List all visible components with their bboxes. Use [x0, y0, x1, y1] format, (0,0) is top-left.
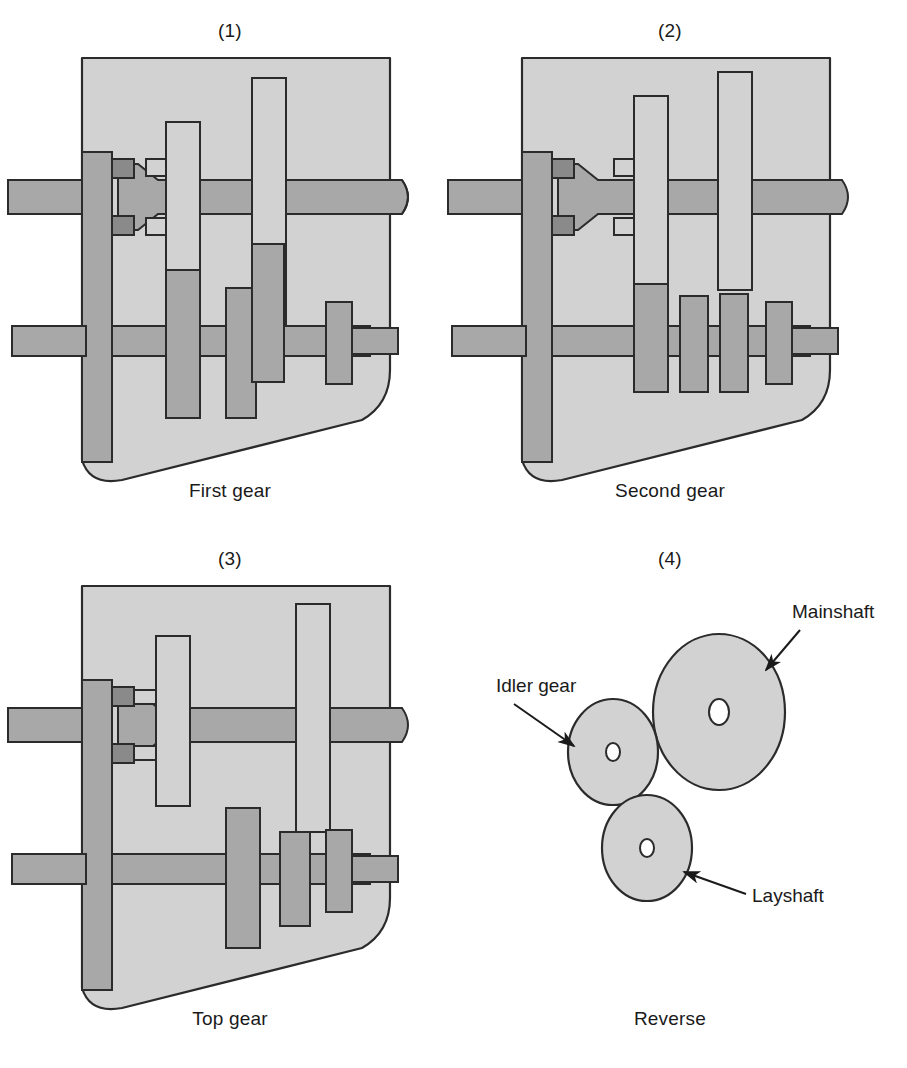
layshaft-left-stub [452, 326, 526, 356]
reverse-gear-drawing: Mainshaft Idler gear Layshaft [470, 580, 870, 1000]
gearbox-section-drawing [30, 580, 430, 1000]
gearbox-figure: (1) [0, 0, 907, 1068]
selector-fork-column [522, 152, 552, 462]
selector-fork-upper-claw [146, 159, 166, 176]
layshaft-gear-1 [226, 808, 260, 948]
panel-top-gear: (3) Top gear [30, 548, 430, 1048]
selector-fork-column [82, 152, 112, 462]
panel-reverse: (4) Mainshaft [470, 548, 870, 1048]
layshaft-gear-3 [720, 294, 748, 392]
layshaft-right-stub [346, 328, 398, 354]
idler-gear-leader-line [514, 704, 574, 746]
sliding-gear-second [718, 72, 752, 290]
layshaft-gear-1 [166, 270, 200, 418]
layshaft-gear-1 [634, 284, 668, 392]
layshaft-gear-3 [252, 244, 284, 382]
gearbox-section-drawing [30, 52, 430, 472]
selector-fork-upper-block [112, 159, 134, 178]
mainshaft-gear-bore [709, 699, 729, 725]
layshaft-gear-4 [766, 302, 792, 384]
layshaft-label: Layshaft [752, 885, 825, 906]
layshaft-left-stub [12, 326, 86, 356]
selector-fork-upper-block [112, 687, 134, 706]
layshaft-gear-2 [280, 832, 310, 926]
selector-fork-lower-claw [134, 746, 156, 760]
selector-fork-lower-claw [614, 218, 634, 235]
panel-first-gear: (1) [30, 20, 430, 520]
selector-fork-lower-claw [146, 218, 166, 235]
selector-fork-lower-block [552, 216, 574, 235]
layshaft-right-stub [346, 856, 398, 882]
layshaft-gear-bore [640, 839, 654, 857]
sliding-gear-second [296, 604, 330, 832]
layshaft-left-stub [12, 854, 86, 884]
panel-number: (3) [30, 548, 430, 570]
sliding-gear-first [156, 636, 190, 806]
layshaft-leader-line [684, 872, 746, 894]
selector-fork-upper-block [552, 159, 574, 178]
mainshaft-leader-line [766, 630, 800, 670]
panel-caption: First gear [30, 480, 430, 502]
panel-number: (2) [470, 20, 870, 42]
mainshaft-label: Mainshaft [792, 601, 875, 622]
selector-fork-upper-claw [134, 690, 156, 704]
panel-caption: Second gear [470, 480, 870, 502]
gearbox-casing [522, 58, 830, 481]
panel-number: (4) [470, 548, 870, 570]
selector-fork-lower-block [112, 216, 134, 235]
idler-gear-label: Idler gear [496, 675, 577, 696]
panel-caption: Reverse [470, 1008, 870, 1030]
selector-fork-upper-claw [614, 159, 634, 176]
panel-second-gear: (2) Se [470, 20, 870, 520]
layshaft-gear-2 [680, 296, 708, 392]
gearbox-section-drawing [470, 52, 870, 472]
layshaft-gear-4 [326, 302, 352, 384]
selector-fork-column [82, 680, 112, 990]
idler-gear-bore [606, 743, 620, 761]
layshaft-gear-4 [326, 830, 352, 912]
panel-caption: Top gear [30, 1008, 430, 1030]
panel-number: (1) [30, 20, 430, 42]
layshaft-right-stub [786, 328, 838, 354]
selector-fork-lower-block [112, 744, 134, 763]
